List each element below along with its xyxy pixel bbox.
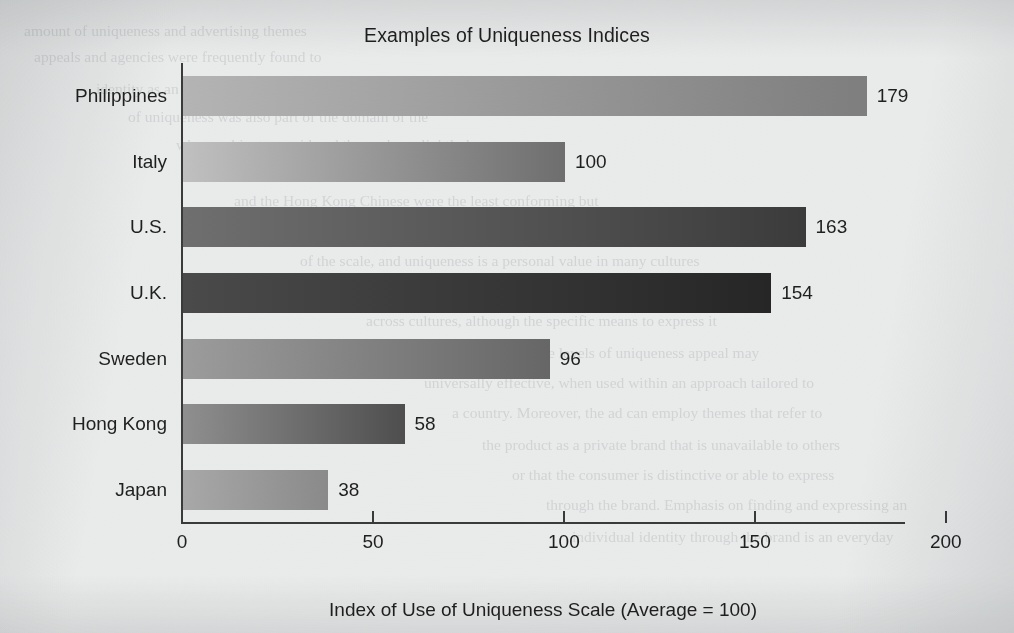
bar-philippines[interactable]	[183, 76, 867, 116]
x-tick-label-200: 200	[930, 531, 962, 553]
x-axis-title: Index of Use of Uniqueness Scale (Averag…	[181, 599, 905, 621]
bar-sweden[interactable]	[183, 339, 550, 379]
bar-u-s[interactable]	[183, 207, 806, 247]
x-tick-label-150: 150	[739, 531, 771, 553]
x-tick-label-50: 50	[362, 531, 383, 553]
bar-row: 163	[181, 207, 878, 247]
bar-italy[interactable]	[183, 142, 565, 182]
bar-row: 96	[181, 339, 878, 379]
x-tick-label-0: 0	[177, 531, 188, 553]
category-label-u-s: U.S.	[130, 216, 167, 238]
category-label-hong-kong: Hong Kong	[72, 413, 167, 435]
bar-value-label: 100	[575, 150, 607, 172]
x-tick-200	[945, 511, 947, 523]
y-axis-line	[181, 63, 183, 523]
bar-row: 100	[181, 142, 878, 182]
category-label-sweden: Sweden	[98, 347, 167, 369]
category-axis-labels: PhilippinesItalyU.S.U.K.SwedenHong KongJ…	[0, 63, 167, 523]
bar-value-label: 38	[338, 479, 359, 501]
bar-value-label: 58	[415, 413, 436, 435]
bar-hong-kong[interactable]	[183, 404, 405, 444]
showthrough-line: individual identity through the brand is…	[572, 528, 894, 546]
bar-row: 58	[181, 404, 878, 444]
bar-value-label: 96	[560, 347, 581, 369]
bar-row: 154	[181, 273, 878, 313]
bar-value-label: 179	[877, 84, 909, 106]
bar-row: 38	[181, 470, 878, 510]
chart-title: Examples of Uniqueness Indices	[0, 24, 1014, 47]
bar-value-label: 154	[781, 282, 813, 304]
category-label-u-k: U.K.	[130, 282, 167, 304]
plot-area: 179100163154965838 050100150200	[181, 63, 878, 523]
bar-value-label: 163	[816, 216, 848, 238]
chart-page: amount of uniqueness and advertising the…	[0, 0, 1014, 633]
x-axis-line	[181, 522, 905, 524]
category-label-philippines: Philippines	[75, 84, 167, 106]
bar-japan[interactable]	[183, 470, 328, 510]
category-label-japan: Japan	[115, 479, 167, 501]
category-label-italy: Italy	[132, 150, 167, 172]
x-tick-label-100: 100	[548, 531, 580, 553]
bar-row: 179	[181, 76, 878, 116]
bar-u-k[interactable]	[183, 273, 771, 313]
